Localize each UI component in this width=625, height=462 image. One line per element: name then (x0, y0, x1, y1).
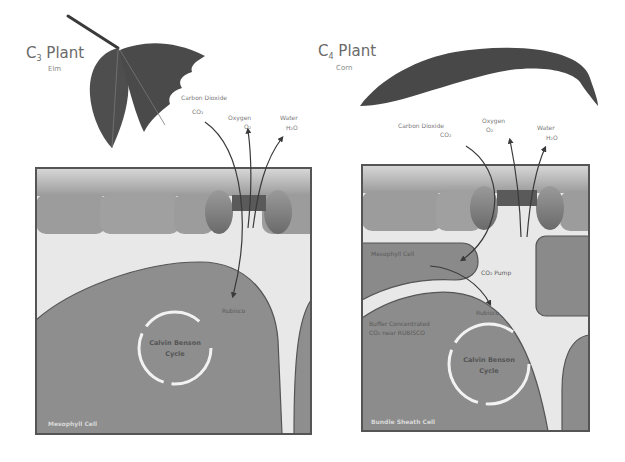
c3-rubisco-label: Rubisco (222, 307, 246, 314)
c3-cell-label: Mesophyll Cell (48, 420, 97, 428)
c4-example-label: Corn (336, 64, 352, 72)
c4-h2o-formula: H₂O (546, 134, 558, 141)
guard-cell-left (205, 190, 233, 234)
c3-h2o-label: Water (280, 114, 298, 121)
c4-o2-label: Oxygen (482, 117, 505, 125)
c3-cycle-label-1: Calvin Benson (149, 339, 201, 347)
c4-concentrate-label-2: CO₂ near RUBISCO (369, 329, 425, 336)
guard-cell-right (536, 186, 564, 230)
c3-leaf-cross-section (36, 168, 322, 434)
c4-cell-label: Bundle Sheath Cell (371, 418, 435, 425)
c4-leaf-cross-section (362, 165, 600, 431)
c4-mesophyll-label: Mesophyll Cell (371, 250, 415, 258)
c4-o2-formula: O₂ (486, 126, 494, 133)
c4-co2-formula: CO₂ (440, 131, 452, 138)
c4-concentrate-label-1: Buffer Concentrated (369, 320, 430, 327)
c3-co2-label: Carbon Dioxide (181, 94, 227, 101)
c3-h2o-formula: H₂O (286, 124, 298, 131)
c3-example-label: Elm (48, 65, 61, 73)
c4-cycle-label-1: Calvin Benson (463, 356, 515, 364)
c3-panel: C3 Plant Elm Carbon Dioxide CO₂ Oxygen O… (26, 16, 322, 434)
c4-rubisco-label: Rubisco (476, 309, 500, 316)
c3-co2-formula: CO₂ (192, 108, 204, 115)
c4-title: C4 Plant (318, 42, 376, 61)
c3-o2-formula: O₂ (244, 123, 252, 130)
c3-title: C3 Plant (26, 44, 84, 63)
c4-pump-label: CO₂ Pump (481, 269, 511, 277)
c4-panel: C4 Plant Corn Carbon Dioxide CO₂ Oxygen … (318, 42, 600, 431)
c4-cycle-label-2: Cycle (479, 367, 499, 375)
c3-c4-diagram: C3 Plant Elm Carbon Dioxide CO₂ Oxygen O… (0, 0, 625, 462)
elm-leaf-icon (68, 16, 205, 148)
guard-cell-right (264, 190, 292, 234)
c4-co2-label: Carbon Dioxide (398, 122, 444, 129)
c3-cycle-label-2: Cycle (165, 350, 185, 358)
c3-o2-label: Oxygen (228, 114, 251, 122)
c4-h2o-label: Water (537, 124, 555, 131)
corn-leaf-icon (360, 48, 598, 106)
